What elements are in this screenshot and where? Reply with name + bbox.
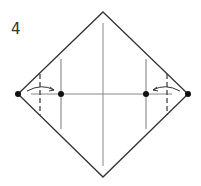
dot-left-vertex (15, 91, 21, 97)
dot-right-vertex (185, 91, 191, 97)
dot-left-inner (58, 91, 64, 97)
origami-fold-diagram (0, 0, 201, 186)
dot-right-inner (143, 91, 149, 97)
